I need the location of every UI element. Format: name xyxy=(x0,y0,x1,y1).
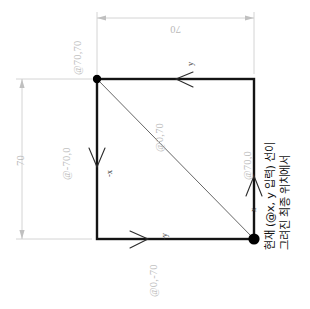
arrowhead-right-top-dim xyxy=(245,15,254,20)
diagram-canvas xyxy=(0,0,310,309)
arrowhead-bottom-left-dim xyxy=(19,230,24,239)
dimension-group-top xyxy=(97,12,254,74)
arrowhead-left-top-dim xyxy=(97,15,106,20)
dimension-group-left xyxy=(16,79,92,239)
arrowhead-top-left-dim xyxy=(19,79,24,88)
diagonal-line xyxy=(97,79,254,239)
diagram-root: 70 70 @70,70 @70,0 @0,70 @-70,0 @0,-70 y… xyxy=(0,0,310,309)
vertex-point-start xyxy=(93,75,101,83)
vertex-point-end xyxy=(248,233,259,244)
